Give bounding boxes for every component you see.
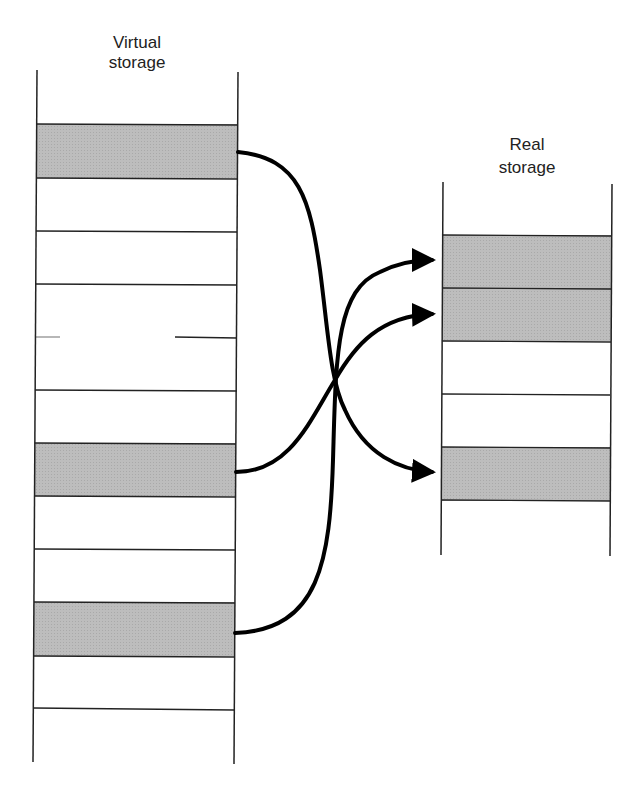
real-frame-shaded (442, 447, 610, 501)
virtual-storage-diagram: Virtual storage Real storage (0, 0, 640, 790)
real-storage-column (441, 182, 612, 556)
real-frame-shaded (443, 235, 611, 288)
virtual-storage-column (33, 70, 238, 764)
virtual-storage-title-line1: Virtual (113, 33, 161, 52)
virtual-page-shaded (35, 443, 236, 496)
mapping-arrow-3 (235, 260, 432, 633)
virtual-storage-title-line2: storage (109, 53, 166, 72)
real-storage-title-line2: storage (499, 158, 556, 177)
virtual-page-shaded (34, 602, 235, 656)
virtual-left-edge (33, 70, 37, 762)
real-storage-title-line1: Real (510, 135, 545, 154)
virtual-page-shaded (36, 124, 237, 178)
real-frame-shaded (443, 288, 611, 341)
page-mapping-arrows (235, 152, 432, 633)
